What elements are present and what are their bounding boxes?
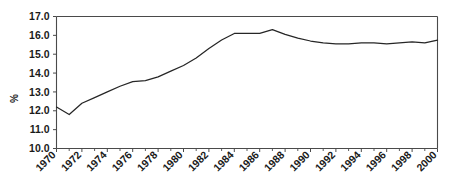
line-chart: 10.011.012.013.014.015.016.017.0 1970197… xyxy=(0,0,464,189)
y-tick-label: 13.0 xyxy=(29,86,50,98)
y-tick-label: 15.0 xyxy=(29,48,50,60)
y-tick-label: 16.0 xyxy=(29,29,50,41)
y-axis-title: % xyxy=(9,94,20,103)
y-tick-label: 17.0 xyxy=(29,10,50,22)
chart-canvas: 10.011.012.013.014.015.016.017.0 1970197… xyxy=(0,0,464,189)
y-tick-label: 12.0 xyxy=(29,104,50,116)
y-tick-label: 14.0 xyxy=(29,67,50,79)
y-tick-label: 11.0 xyxy=(30,123,50,135)
